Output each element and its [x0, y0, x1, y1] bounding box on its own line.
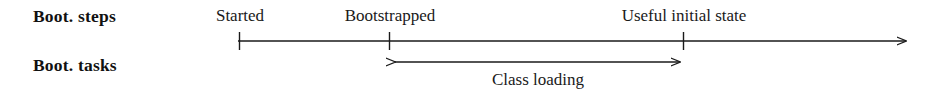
- timeline-graphics: [0, 0, 935, 100]
- boot-timeline-figure: Boot. steps Boot. tasks Started Bootstra…: [0, 0, 935, 100]
